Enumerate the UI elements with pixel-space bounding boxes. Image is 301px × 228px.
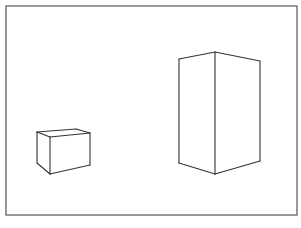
tall-box-edge (215, 52, 260, 61)
frame-border (6, 6, 297, 215)
small-box-edge (37, 129, 76, 132)
small-box-edge (76, 129, 90, 133)
small-box-edge (50, 133, 90, 137)
small-box-edge (50, 165, 90, 174)
small-box-edge (37, 163, 50, 174)
tall-box-edge (179, 52, 215, 59)
tall-box-shape (179, 52, 260, 174)
small-box-shape (37, 129, 90, 174)
small-box-edge (37, 132, 50, 137)
drawing-canvas (0, 0, 301, 228)
tall-box-edge (215, 161, 260, 174)
tall-box-edge (179, 163, 215, 174)
